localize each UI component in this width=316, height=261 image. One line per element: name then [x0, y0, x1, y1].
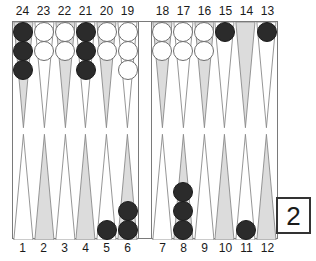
checker-white-point-20[interactable] — [97, 41, 117, 61]
point-5[interactable] — [96, 131, 117, 240]
point-12[interactable] — [256, 131, 277, 240]
checker-white-point-16[interactable] — [194, 22, 214, 42]
point-14[interactable] — [235, 22, 256, 131]
point-3[interactable] — [55, 131, 76, 240]
point-16[interactable] — [194, 22, 215, 131]
point-number-15: 15 — [215, 4, 236, 18]
point-13[interactable] — [256, 22, 277, 131]
point-number-8: 8 — [173, 241, 194, 255]
point-2[interactable] — [34, 131, 55, 240]
point-triangle-1 — [13, 131, 34, 240]
quadrant-bottom-left — [13, 131, 138, 240]
point-15[interactable] — [214, 22, 235, 131]
point-number-22: 22 — [54, 4, 75, 18]
point-7[interactable] — [152, 131, 173, 240]
point-number-6: 6 — [117, 241, 138, 255]
point-triangle-10 — [214, 131, 235, 240]
checker-black-point-6[interactable] — [118, 201, 138, 221]
point-8[interactable] — [173, 131, 194, 240]
board-bar[interactable] — [138, 22, 152, 238]
point-1[interactable] — [13, 131, 34, 240]
board-playing-surface — [12, 21, 278, 239]
checker-black-point-21[interactable] — [76, 41, 96, 61]
point-number-3: 3 — [54, 241, 75, 255]
point-number-18: 18 — [152, 4, 173, 18]
point-number-10: 10 — [215, 241, 236, 255]
point-triangle-4 — [75, 131, 96, 240]
point-number-24: 24 — [12, 4, 33, 18]
checker-white-point-20[interactable] — [97, 22, 117, 42]
point-number-7: 7 — [152, 241, 173, 255]
point-triangle-14 — [235, 22, 256, 131]
checker-white-point-22[interactable] — [55, 41, 75, 61]
doubling-cube-value: 2 — [286, 203, 300, 229]
doubling-cube[interactable]: 2 — [276, 197, 311, 234]
point-number-13: 13 — [257, 4, 278, 18]
point-number-9: 9 — [194, 241, 215, 255]
point-11[interactable] — [235, 131, 256, 240]
point-triangle-7 — [152, 131, 173, 240]
point-triangle-3 — [55, 131, 76, 240]
point-6[interactable] — [117, 131, 138, 240]
checker-black-point-21[interactable] — [76, 60, 96, 80]
point-19[interactable] — [117, 22, 138, 131]
checker-black-point-11[interactable] — [236, 220, 256, 240]
point-number-16: 16 — [194, 4, 215, 18]
point-10[interactable] — [214, 131, 235, 240]
point-number-2: 2 — [33, 241, 54, 255]
point-triangle-9 — [194, 131, 215, 240]
checker-black-point-13[interactable] — [257, 22, 277, 42]
point-4[interactable] — [75, 131, 96, 240]
quadrant-bottom-right — [152, 131, 277, 240]
point-number-4: 4 — [75, 241, 96, 255]
backgammon-board: 242322212019 181716151413 123456 7891011… — [0, 0, 316, 261]
checker-white-point-19[interactable] — [118, 22, 138, 42]
point-24[interactable] — [13, 22, 34, 131]
point-triangle-2 — [34, 131, 55, 240]
checker-black-point-21[interactable] — [76, 22, 96, 42]
point-9[interactable] — [194, 131, 215, 240]
quadrant-top-right — [152, 22, 277, 131]
point-numbers-top-right: 181716151413 — [152, 3, 278, 19]
checker-white-point-19[interactable] — [118, 41, 138, 61]
checker-black-point-6[interactable] — [118, 220, 138, 240]
point-21[interactable] — [75, 22, 96, 131]
point-triangle-12 — [256, 131, 277, 240]
point-23[interactable] — [34, 22, 55, 131]
checker-black-point-5[interactable] — [97, 220, 117, 240]
point-number-21: 21 — [75, 4, 96, 18]
point-number-17: 17 — [173, 4, 194, 18]
point-numbers-bottom-right: 789101112 — [152, 240, 278, 256]
checker-black-point-15[interactable] — [215, 22, 235, 42]
point-numbers-bottom-left: 123456 — [12, 240, 138, 256]
point-number-19: 19 — [117, 4, 138, 18]
checker-white-point-16[interactable] — [194, 41, 214, 61]
checker-white-point-19[interactable] — [118, 60, 138, 80]
point-number-1: 1 — [12, 241, 33, 255]
point-number-14: 14 — [236, 4, 257, 18]
point-22[interactable] — [55, 22, 76, 131]
point-17[interactable] — [173, 22, 194, 131]
checker-white-point-22[interactable] — [55, 22, 75, 42]
point-20[interactable] — [96, 22, 117, 131]
point-18[interactable] — [152, 22, 173, 131]
point-number-23: 23 — [33, 4, 54, 18]
point-number-5: 5 — [96, 241, 117, 255]
point-numbers-top-left: 242322212019 — [12, 3, 138, 19]
point-number-11: 11 — [236, 241, 257, 255]
point-number-20: 20 — [96, 4, 117, 18]
point-number-12: 12 — [257, 241, 278, 255]
quadrant-top-left — [13, 22, 138, 131]
